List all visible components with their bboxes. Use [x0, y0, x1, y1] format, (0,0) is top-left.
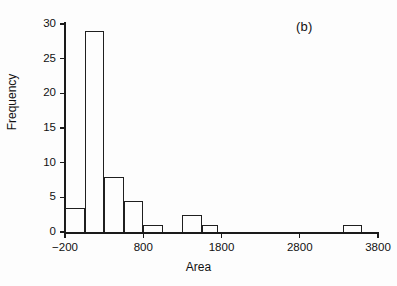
y-tick-label: 0	[26, 226, 56, 237]
y-tick	[60, 162, 64, 163]
y-tick	[60, 23, 64, 24]
histogram-bar	[124, 201, 144, 232]
y-tick	[60, 197, 64, 198]
x-tick	[299, 234, 300, 238]
histogram-figure: (b) 051015202530 −200800180028003800 Are…	[0, 0, 397, 286]
histogram-bar	[343, 225, 363, 232]
y-axis-label: Frequency	[5, 42, 19, 162]
y-tick	[60, 93, 64, 94]
x-axis-label: Area	[0, 260, 397, 274]
x-tick-label: 1800	[199, 241, 245, 253]
histogram-bar	[182, 215, 202, 232]
plot-area	[65, 24, 378, 232]
x-tick	[143, 234, 144, 238]
x-tick-label: 3800	[355, 241, 397, 253]
y-tick-label: 5	[26, 191, 56, 202]
y-tick	[60, 231, 64, 232]
histogram-bar	[85, 31, 105, 232]
x-tick-label: 2800	[277, 241, 323, 253]
y-tick-label: 25	[26, 53, 56, 64]
y-tick-label: 20	[26, 87, 56, 98]
x-tick	[64, 234, 65, 238]
y-tick	[60, 58, 64, 59]
x-tick-label: −200	[42, 241, 88, 253]
histogram-bar	[104, 177, 124, 232]
histogram-bar	[143, 225, 163, 232]
y-tick-label: 30	[26, 18, 56, 29]
histogram-bar	[202, 225, 218, 232]
x-tick-label: 800	[120, 241, 166, 253]
x-tick	[377, 234, 378, 238]
y-tick	[60, 127, 64, 128]
y-tick-label: 10	[26, 157, 56, 168]
histogram-bar	[65, 208, 85, 232]
y-tick-label: 15	[26, 122, 56, 133]
x-tick	[221, 234, 222, 238]
